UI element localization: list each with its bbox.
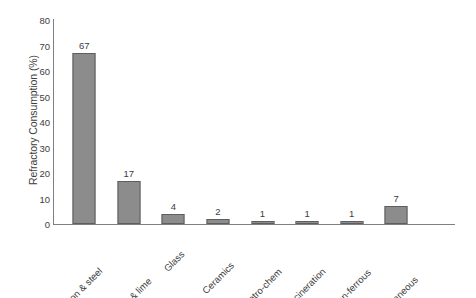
bar[interactable] bbox=[296, 221, 319, 224]
y-tick-label: 60 bbox=[30, 66, 50, 77]
y-tick-label: 30 bbox=[30, 142, 50, 153]
bar-value-label: 1 bbox=[349, 208, 354, 219]
bar-slot: 67 bbox=[62, 20, 107, 224]
bar[interactable] bbox=[385, 206, 408, 224]
bar[interactable] bbox=[117, 181, 140, 224]
bar-value-label: 4 bbox=[171, 201, 176, 212]
bar-slot: 7 bbox=[374, 20, 419, 224]
y-tick-label: 50 bbox=[30, 91, 50, 102]
category-slot: Petro-chem bbox=[240, 228, 285, 298]
bar-value-label: 1 bbox=[304, 208, 309, 219]
bar-slot: 1 bbox=[329, 20, 374, 224]
bar-value-label: 17 bbox=[124, 168, 135, 179]
bar-slot: 1 bbox=[240, 20, 285, 224]
y-tick-label: 40 bbox=[30, 117, 50, 128]
category-slot: Miscellaneous bbox=[374, 228, 419, 298]
y-tick-label: 0 bbox=[30, 219, 50, 230]
y-tick-label: 20 bbox=[30, 168, 50, 179]
bar-slot: 1 bbox=[285, 20, 330, 224]
bar[interactable] bbox=[340, 221, 363, 224]
category-slot: Cement & lime bbox=[107, 228, 152, 298]
x-tick-label: Miscellaneous bbox=[412, 231, 462, 281]
plot-area: 6717421117 bbox=[54, 20, 455, 224]
y-tick-label: 70 bbox=[30, 40, 50, 51]
category-slot: incineration bbox=[285, 228, 330, 298]
bar[interactable] bbox=[162, 214, 185, 224]
bar[interactable] bbox=[73, 53, 96, 224]
category-slot: Ceramics bbox=[196, 228, 241, 298]
category-slot: Iron & steel bbox=[62, 228, 107, 298]
category-slot: Glass bbox=[151, 228, 196, 298]
y-axis-tick-labels: 80706050403020100 bbox=[30, 0, 50, 298]
bar[interactable] bbox=[251, 221, 274, 224]
x-axis-category-labels: Iron & steelCement & limeGlassCeramicsPe… bbox=[54, 228, 455, 298]
bar-slot: 17 bbox=[107, 20, 152, 224]
bar-slot: 4 bbox=[151, 20, 196, 224]
bar-value-label: 1 bbox=[260, 208, 265, 219]
category-slot: Non-ferrous bbox=[329, 228, 374, 298]
y-tick-label: 10 bbox=[30, 193, 50, 204]
bar-chart: Refractory Consumption (%) 8070605040302… bbox=[0, 0, 476, 298]
bar-value-label: 2 bbox=[215, 206, 220, 217]
bar-slot: 2 bbox=[196, 20, 241, 224]
bar-value-label: 7 bbox=[394, 193, 399, 204]
bar-value-label: 67 bbox=[79, 40, 90, 51]
y-tick-label: 80 bbox=[30, 15, 50, 26]
bar[interactable] bbox=[206, 219, 229, 224]
